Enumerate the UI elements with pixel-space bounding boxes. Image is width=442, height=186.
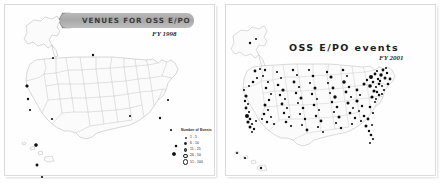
event-marker <box>283 112 285 114</box>
event-marker <box>351 123 353 125</box>
event-marker <box>376 91 378 93</box>
event-marker <box>172 152 175 155</box>
page-title: VENUES FOR OSS E/PO EVENTS <box>82 16 194 25</box>
map-container-2001[interactable] <box>221 0 442 186</box>
event-marker <box>336 106 339 109</box>
event-marker <box>295 92 297 94</box>
event-marker <box>331 101 333 103</box>
event-marker <box>363 115 366 118</box>
event-marker <box>41 176 43 178</box>
event-marker <box>355 99 358 102</box>
slide-events-fy2001[interactable]: OSS E/PO events FY 2001 <box>221 0 442 186</box>
event-marker <box>52 57 54 59</box>
legend-label: 51 - 100 <box>190 161 203 164</box>
event-marker <box>342 69 345 72</box>
event-marker <box>36 164 38 166</box>
event-marker <box>170 129 172 131</box>
event-marker <box>363 83 366 86</box>
event-marker <box>249 42 251 44</box>
event-marker <box>288 116 290 118</box>
event-marker <box>371 124 373 126</box>
event-marker <box>340 127 342 129</box>
legend-1998: Number of Events 1 - 5 6 - 10 11 - 25 26… <box>181 129 212 165</box>
event-marker <box>381 93 383 95</box>
event-marker <box>379 80 381 82</box>
event-marker <box>329 75 332 78</box>
event-marker <box>249 118 252 121</box>
event-marker <box>368 130 370 132</box>
event-marker <box>263 113 266 116</box>
event-marker <box>370 95 373 98</box>
event-marker <box>248 85 250 87</box>
event-marker <box>51 118 53 120</box>
legend-dot-icon <box>181 154 190 158</box>
slide-venues-fy1998[interactable]: VENUES FOR OSS E/PO EVENTS FY 1998 <box>0 0 221 186</box>
event-marker <box>248 111 250 113</box>
legend-title: Number of Events <box>181 129 212 132</box>
event-marker <box>372 81 375 84</box>
event-marker <box>255 38 257 40</box>
legend-dot-icon <box>181 137 190 139</box>
event-marker <box>389 78 392 81</box>
event-marker <box>383 89 385 91</box>
event-marker <box>175 145 178 148</box>
event-marker <box>313 104 316 107</box>
event-marker <box>385 67 387 69</box>
event-marker <box>326 71 328 73</box>
event-marker <box>245 114 249 118</box>
event-marker <box>300 97 303 100</box>
event-marker <box>261 118 263 120</box>
event-marker <box>270 116 272 118</box>
united-states-map[interactable] <box>221 0 442 186</box>
event-marker <box>372 89 375 92</box>
event-marker <box>276 71 278 73</box>
event-marker <box>379 73 382 76</box>
event-marker <box>332 87 335 90</box>
event-marker <box>306 129 309 132</box>
event-marker <box>293 81 296 84</box>
event-marker <box>270 93 272 95</box>
event-marker <box>167 99 169 101</box>
alaska-panhandle <box>259 55 265 67</box>
event-marker <box>352 107 354 109</box>
event-marker <box>251 123 253 125</box>
event-marker <box>281 88 284 91</box>
event-marker <box>255 120 257 122</box>
event-marker <box>342 80 346 84</box>
event-marker <box>159 117 161 119</box>
event-marker <box>265 87 268 90</box>
event-marker <box>264 104 267 107</box>
event-marker <box>299 113 301 115</box>
event-marker <box>369 142 371 144</box>
event-marker <box>372 112 374 114</box>
event-marker <box>361 105 363 107</box>
event-marker <box>243 89 245 91</box>
event-marker <box>368 84 372 88</box>
event-marker <box>386 72 388 74</box>
event-marker <box>384 77 387 80</box>
event-marker <box>290 125 292 127</box>
legend-label: 26 - 50 <box>190 154 201 157</box>
event-marker <box>277 84 280 87</box>
event-marker <box>279 94 281 96</box>
event-marker <box>378 83 381 86</box>
legend-item: 51 - 100 <box>181 159 212 165</box>
event-marker <box>92 54 94 56</box>
event-marker <box>312 75 315 78</box>
event-marker <box>315 115 317 117</box>
event-marker <box>320 120 323 123</box>
event-marker <box>27 98 29 100</box>
event-marker <box>249 126 252 129</box>
event-marker <box>236 152 238 154</box>
event-marker <box>273 123 275 125</box>
event-marker <box>244 157 246 159</box>
event-marker <box>329 92 331 94</box>
event-marker <box>264 69 266 71</box>
event-marker <box>297 102 299 104</box>
event-marker <box>129 115 131 117</box>
event-marker <box>246 120 249 123</box>
event-marker <box>302 107 305 110</box>
event-marker <box>366 79 368 81</box>
event-marker <box>370 134 373 137</box>
alaska-panhandle <box>52 45 58 57</box>
